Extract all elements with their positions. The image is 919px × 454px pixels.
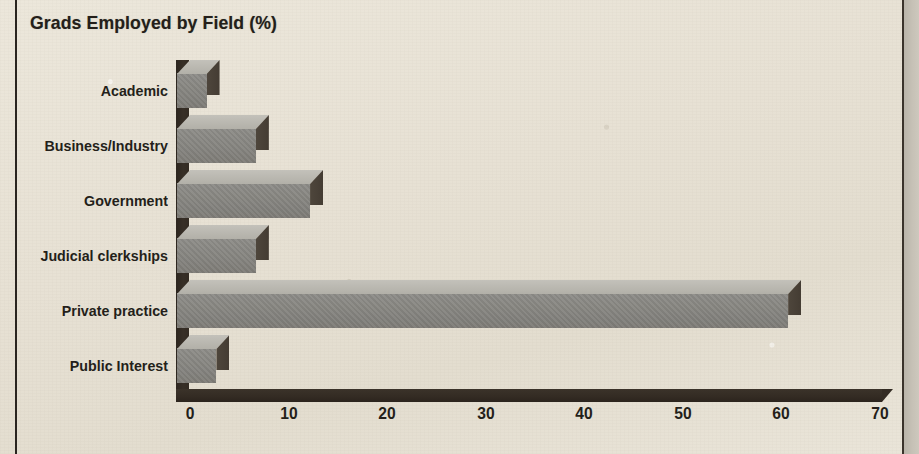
bar-shape <box>177 335 229 383</box>
x-axis-end-cap <box>882 389 893 402</box>
bar-shape <box>177 170 323 218</box>
bar-front-face <box>177 293 788 328</box>
category-label: Public Interest <box>16 357 168 374</box>
bar-top-face <box>177 280 801 294</box>
bar-shape <box>177 60 220 108</box>
bar-top-face <box>177 225 269 239</box>
x-tick-label: 0 <box>186 404 195 424</box>
bar-front-face <box>177 73 207 108</box>
bar-shape <box>177 280 801 328</box>
x-tick-label: 70 <box>871 404 888 424</box>
x-tick-label: 30 <box>477 404 494 424</box>
category-label: Private practice <box>16 302 168 319</box>
category-label: Judicial clerkships <box>16 247 168 264</box>
bar-front-face <box>177 128 256 163</box>
bar-top-face <box>177 170 323 184</box>
x-axis-spine <box>176 389 882 402</box>
bar-shape <box>177 115 269 163</box>
x-tick-label: 10 <box>280 404 297 424</box>
bar-front-face <box>177 183 310 218</box>
x-tick-label: 20 <box>378 404 395 424</box>
x-tick-label: 60 <box>773 404 790 424</box>
bar-front-face <box>177 238 256 273</box>
category-label: Business/Industry <box>16 137 168 154</box>
chart-page: Grads Employed by Field (%) AcademicBusi… <box>0 0 919 454</box>
x-tick-label: 50 <box>674 404 691 424</box>
category-label: Academic <box>16 82 168 99</box>
x-tick-label: 40 <box>576 404 593 424</box>
chart-plot-area: AcademicBusiness/IndustryGovernmentJudic… <box>0 0 919 454</box>
category-label: Government <box>16 192 168 209</box>
bar-top-face <box>177 115 269 129</box>
bar-front-face <box>177 348 216 383</box>
bar-shape <box>177 225 269 273</box>
